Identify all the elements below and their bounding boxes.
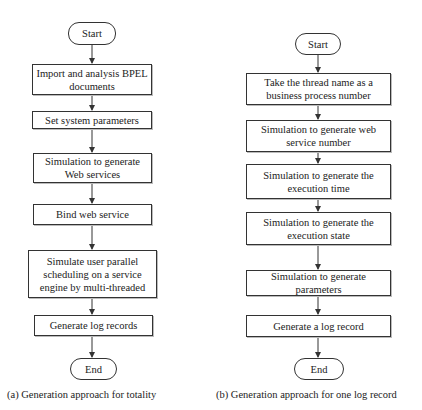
step-set-parameters: Set system parameters [32, 111, 152, 129]
step-generate-web-services: Simulation to generate Web services [33, 153, 152, 183]
caption-b: (b) Generation approach for one log reco… [216, 389, 397, 400]
start-node: Start [68, 22, 116, 45]
end-node: End [70, 358, 117, 380]
step-parameters: Simulation to generate parameters [246, 270, 391, 296]
step-import-bpel: Import and analysis BPEL documents [32, 64, 152, 95]
step-execution-state: Simulation to generate the execution sta… [246, 212, 391, 245]
step-web-service-number: Simulation to generate web service numbe… [246, 120, 391, 152]
step-execution-time: Simulation to generate the execution tim… [246, 164, 391, 199]
step-thread-name: Take the thread name as a business proce… [246, 73, 391, 105]
end-node: End [294, 358, 344, 380]
step-generate-log-record: Generate a log record [246, 315, 391, 337]
step-parallel-scheduling: Simulate user parallel scheduling on a s… [28, 250, 157, 298]
start-node: Start [295, 33, 341, 55]
step-bind-web-service: Bind web service [33, 204, 152, 225]
step-generate-log-records: Generate log records [34, 315, 153, 336]
caption-a: (a) Generation approach for totality [7, 389, 156, 400]
